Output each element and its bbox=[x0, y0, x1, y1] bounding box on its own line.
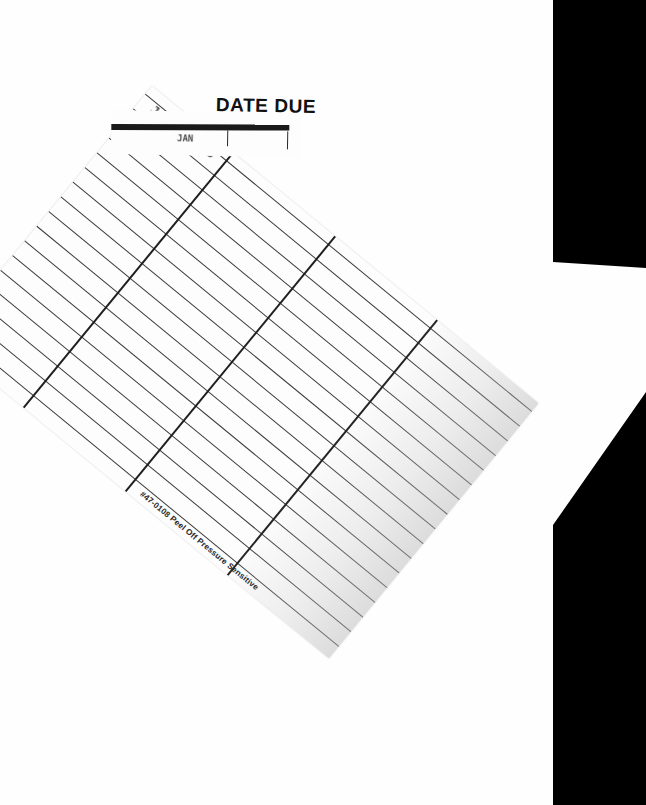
card-row-rule bbox=[0, 329, 339, 647]
date-due-slip: DATE DUE JAN bbox=[111, 92, 302, 158]
date-due-card: JAN 10 19 #47-0108 Peel Off Pressure Sen… bbox=[0, 86, 538, 658]
card-row-rule bbox=[0, 285, 375, 603]
slip-paper bbox=[111, 110, 302, 158]
slip-stamp-smudge: JAN bbox=[177, 133, 193, 143]
card-surface: JAN 10 19 #47-0108 Peel Off Pressure Sen… bbox=[0, 86, 538, 658]
card-row-rule bbox=[0, 299, 363, 617]
scanned-document: JAN 10 19 #47-0108 Peel Off Pressure Sen… bbox=[0, 0, 646, 805]
card-row-rule bbox=[49, 211, 436, 529]
card-column-divider bbox=[23, 152, 234, 408]
slip-rule-bar bbox=[111, 124, 289, 131]
slip-title: DATE DUE bbox=[216, 94, 317, 118]
card-ruled-rows bbox=[0, 86, 538, 658]
